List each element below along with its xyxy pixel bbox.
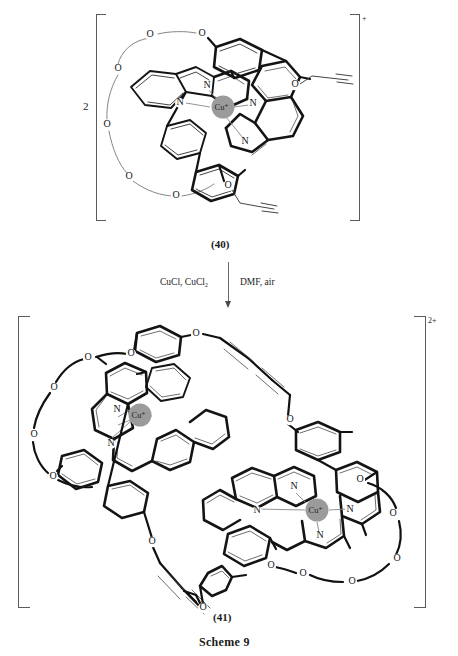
svg-text:O: O <box>125 170 132 181</box>
svg-text:O: O <box>146 28 153 39</box>
svg-text:O: O <box>356 473 363 484</box>
scheme-canvas: 2 + <box>0 0 458 656</box>
svg-text:O: O <box>172 189 179 200</box>
product-left-aryl-a <box>135 326 181 362</box>
reactant-copper-center: Cu⁺ <box>212 96 235 119</box>
reactant-propargyl-top <box>300 74 353 84</box>
svg-text:O: O <box>192 327 199 338</box>
svg-text:O: O <box>348 575 355 586</box>
reaction-arrow-shaft <box>228 262 229 304</box>
svg-text:O: O <box>393 552 400 563</box>
product-butadiyne-upper <box>203 334 298 432</box>
svg-text:O: O <box>84 351 91 362</box>
svg-text:O: O <box>291 78 298 89</box>
product-right-aryl-b <box>224 526 270 566</box>
svg-text:O: O <box>30 428 37 439</box>
reactant-structure: O O O O O O O O N N N N Cu⁺ <box>0 0 458 240</box>
reactant-label: (40) <box>211 239 229 250</box>
svg-text:N: N <box>241 135 248 146</box>
svg-text:O: O <box>389 507 396 518</box>
svg-text:O: O <box>127 347 134 358</box>
svg-text:O: O <box>286 413 293 424</box>
svg-text:O: O <box>267 559 274 570</box>
product-left-aryl-d <box>104 481 148 518</box>
reactant-propargyl-bottom <box>232 190 278 213</box>
svg-text:O: O <box>49 470 56 481</box>
product-label: (41) <box>213 612 231 623</box>
reaction-reagents-left: CuCl, CuCl₂ <box>160 278 208 288</box>
svg-text:N: N <box>346 503 353 514</box>
svg-text:O: O <box>148 535 155 546</box>
svg-text:N: N <box>249 97 256 108</box>
svg-text:Cu⁺: Cu⁺ <box>309 505 324 515</box>
svg-text:Cu⁺: Cu⁺ <box>132 410 147 420</box>
svg-text:N: N <box>253 504 260 515</box>
product-left-copper-center: Cu⁺ <box>129 404 152 427</box>
reaction-arrow-head <box>225 301 231 308</box>
product-right-aryl-a <box>296 422 340 460</box>
product-right-polyether-loop <box>275 483 401 582</box>
svg-text:O: O <box>224 179 231 190</box>
product-right-copper-center: Cu⁺ <box>306 499 329 522</box>
svg-text:N: N <box>176 96 183 107</box>
product-structure: O O O O O O O N N O O O O O O O O N N N … <box>0 320 458 620</box>
svg-text:Cu⁺: Cu⁺ <box>215 102 230 112</box>
product-left-phenanthroline <box>92 363 229 471</box>
svg-text:O: O <box>198 27 205 38</box>
svg-text:O: O <box>199 601 206 612</box>
product-right-aryl-c <box>200 566 232 596</box>
svg-text:N: N <box>316 529 323 540</box>
svg-text:N: N <box>203 79 210 90</box>
svg-text:N: N <box>113 403 120 414</box>
reactant-aryl-top <box>214 39 262 78</box>
svg-text:N: N <box>290 480 297 491</box>
svg-text:O: O <box>50 381 57 392</box>
svg-text:O: O <box>299 567 306 578</box>
scheme-caption: Scheme 9 <box>199 636 250 648</box>
reaction-reagents-right: DMF, air <box>240 278 275 288</box>
svg-text:N: N <box>107 437 114 448</box>
svg-text:O: O <box>103 118 110 129</box>
product-left-aryl-b <box>146 364 190 401</box>
svg-text:O: O <box>114 62 121 73</box>
reactant-ether-bonds <box>167 38 310 181</box>
